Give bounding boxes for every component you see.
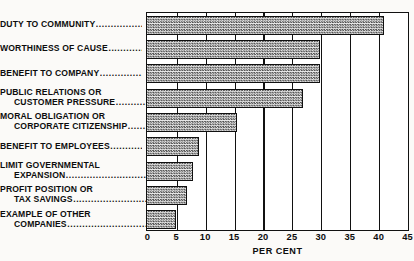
bar xyxy=(146,113,237,132)
category-label-line: PUBLIC RELATIONS OR xyxy=(0,87,142,97)
category-label: PUBLIC RELATIONS ORCUSTOMER PRESSURE....… xyxy=(0,85,145,109)
category-label: PROFIT POSITION ORTAX SAVINGS...........… xyxy=(0,182,145,206)
category-label: MORAL OBLIGATION ORCORPORATE CITIZENSHIP… xyxy=(0,109,145,133)
x-tick-label-20: 20 xyxy=(258,232,269,242)
dot-leader: ........................................… xyxy=(73,194,156,204)
category-axis-labels: DUTY TO COMMUNITY.......................… xyxy=(0,12,145,231)
category-label-line: CUSTOMER PRESSURE.......................… xyxy=(0,97,156,107)
category-label-line: WORTHINESS OF CAUSE.....................… xyxy=(0,43,142,53)
dot-leader: ........................................… xyxy=(100,68,142,78)
dot-leader: ........................................… xyxy=(108,43,142,53)
x-tick-label-10: 10 xyxy=(200,232,211,242)
category-label: EXAMPLE OF OTHERCOMPANIES...............… xyxy=(0,207,145,231)
category-label-text: LIMIT GOVERNMENTAL xyxy=(0,160,100,170)
x-tick-label-5: 5 xyxy=(174,232,179,242)
category-label-text: BENEFIT TO EMPLOYEES xyxy=(0,141,110,151)
category-label-line: BENEFIT TO EMPLOYEES....................… xyxy=(0,141,142,151)
category-label-text: EXPANSION xyxy=(14,170,65,180)
category-label-text: MORAL OBLIGATION OR xyxy=(0,111,105,121)
category-label-line: BENEFIT TO COMPANY......................… xyxy=(0,68,142,78)
category-label-text: DUTY TO COMMUNITY xyxy=(0,19,95,29)
category-label-line: EXAMPLE OF OTHER xyxy=(0,209,142,219)
category-label-line: PROFIT POSITION OR xyxy=(0,184,142,194)
category-label-line: LIMIT GOVERNMENTAL xyxy=(0,160,142,170)
category-label-text: COMPANIES xyxy=(14,219,67,229)
x-axis-tick-labels: 051015202530354045 xyxy=(146,232,409,246)
category-label-text: TAX SAVINGS xyxy=(14,194,73,204)
category-label-text: BENEFIT TO COMPANY xyxy=(0,68,99,78)
category-label-line: EXPANSION...............................… xyxy=(0,170,156,180)
category-label-text: WORTHINESS OF CAUSE xyxy=(0,43,108,53)
dot-leader: ........................................… xyxy=(110,141,142,151)
bar-series xyxy=(147,13,408,230)
bar xyxy=(146,40,321,59)
x-tick-label-0: 0 xyxy=(145,232,150,242)
category-label-text: PROFIT POSITION OR xyxy=(0,184,93,194)
x-tick-label-45: 45 xyxy=(402,232,413,242)
x-tick-label-40: 40 xyxy=(373,232,384,242)
category-label: WORTHINESS OF CAUSE.....................… xyxy=(0,36,145,60)
bar xyxy=(146,137,199,156)
dot-leader: ........................................… xyxy=(66,170,156,180)
category-label-line: CORPORATE CITIZENSHIP...................… xyxy=(0,121,156,131)
category-label: DUTY TO COMMUNITY.......................… xyxy=(0,12,145,36)
bar xyxy=(146,16,384,35)
category-label: BENEFIT TO COMPANY......................… xyxy=(0,61,145,85)
category-label-line: MORAL OBLIGATION OR xyxy=(0,111,142,121)
x-axis-title: PER CENT xyxy=(146,246,409,256)
bar xyxy=(146,186,188,205)
x-tick-label-35: 35 xyxy=(344,232,355,242)
category-label-text: EXAMPLE OF OTHER xyxy=(0,209,91,219)
category-label: BENEFIT TO EMPLOYEES....................… xyxy=(0,134,145,158)
category-label-text: CORPORATE CITIZENSHIP xyxy=(14,121,127,131)
bar xyxy=(146,162,194,181)
dot-leader: ........................................… xyxy=(67,219,156,229)
category-label: LIMIT GOVERNMENTALEXPANSION.............… xyxy=(0,158,145,182)
bar xyxy=(146,210,176,229)
bar xyxy=(146,64,321,83)
x-tick-label-30: 30 xyxy=(315,232,326,242)
bar xyxy=(146,89,304,108)
x-tick-label-25: 25 xyxy=(287,232,298,242)
category-label-line: TAX SAVINGS.............................… xyxy=(0,194,156,204)
category-label-line: COMPANIES...............................… xyxy=(0,219,156,229)
category-label-text: PUBLIC RELATIONS OR xyxy=(0,87,102,97)
x-tick-label-15: 15 xyxy=(229,232,240,242)
plot-area xyxy=(146,12,409,231)
category-label-text: CUSTOMER PRESSURE xyxy=(14,97,115,107)
category-label-line: DUTY TO COMMUNITY.......................… xyxy=(0,19,142,29)
bar-chart: DUTY TO COMMUNITY.......................… xyxy=(0,0,414,261)
dot-leader: ........................................… xyxy=(96,19,142,29)
